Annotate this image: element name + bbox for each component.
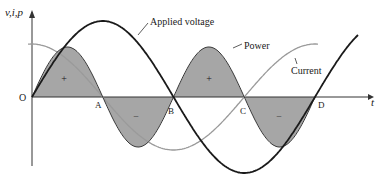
point-label-b: B bbox=[168, 106, 174, 116]
y-axis-label: v,i,p bbox=[5, 6, 24, 18]
current-label: Current bbox=[291, 65, 322, 76]
power-label: Power bbox=[244, 40, 270, 51]
region-sign-1: + bbox=[61, 73, 67, 84]
region-sign-2: – bbox=[133, 110, 139, 120]
origin-label: O bbox=[19, 92, 26, 103]
x-axis-label: t bbox=[371, 96, 375, 108]
region-sign-3: + bbox=[206, 73, 212, 84]
current-leader-line bbox=[295, 58, 297, 64]
voltage-label: Applied voltage bbox=[150, 16, 215, 27]
point-label-d: D bbox=[318, 100, 325, 110]
point-label-a: A bbox=[95, 100, 102, 110]
vertical-axis-arrow-icon bbox=[29, 10, 35, 18]
power-waveform-diagram: v,i,p t O A B C D Applied voltage Power … bbox=[0, 0, 378, 175]
point-label-c: C bbox=[240, 106, 246, 116]
power-leader-line bbox=[233, 44, 242, 48]
region-sign-4: – bbox=[276, 110, 282, 120]
voltage-leader-line bbox=[138, 23, 148, 35]
